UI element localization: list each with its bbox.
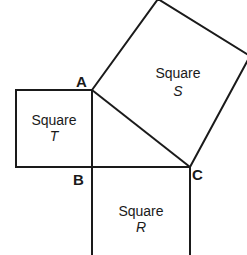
square-s-word: Square [155,65,200,81]
square-r-word: Square [118,203,163,219]
vertex-label-b: B [73,171,84,188]
square-s-shape [92,0,247,167]
square-t-name: T [50,128,60,144]
pythagorean-diagram: A B C Square T Square S Square R [0,0,247,255]
side-ac [92,90,190,167]
square-t-word: Square [31,112,76,128]
vertex-label-a: A [76,73,87,90]
vertex-label-c: C [192,166,203,183]
square-s-name: S [173,83,183,99]
square-r-name: R [136,219,146,235]
